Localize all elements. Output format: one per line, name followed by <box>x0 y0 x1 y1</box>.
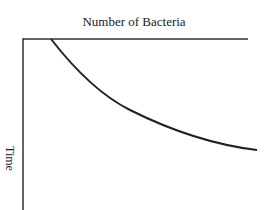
data-curve <box>51 39 257 150</box>
chart-plot <box>0 0 268 210</box>
